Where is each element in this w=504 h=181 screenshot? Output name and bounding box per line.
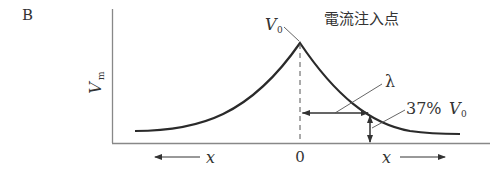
svg-text:0: 0	[461, 109, 467, 119]
decay-label: 37% V 0	[406, 99, 467, 119]
membrane-potential-decay-diagram: B V m V 0 電流注入点 λ 37% V 0 0 x x	[0, 0, 504, 181]
current-injection-label: 電流注入点	[324, 10, 399, 28]
peak-label-sub: 0	[277, 25, 283, 35]
panel-label: B	[22, 6, 33, 24]
origin-label: 0	[295, 148, 305, 166]
x-right-label: x	[382, 148, 391, 167]
svg-text:V: V	[86, 81, 105, 94]
decay-curve	[135, 43, 460, 134]
svg-text:37%: 37%	[406, 99, 442, 118]
v0-leader-line	[284, 27, 299, 41]
svg-text:m: m	[96, 71, 106, 80]
lambda-label: λ	[385, 72, 395, 91]
y-axis-label: V m	[86, 71, 106, 94]
x-left-label: x	[206, 148, 215, 167]
